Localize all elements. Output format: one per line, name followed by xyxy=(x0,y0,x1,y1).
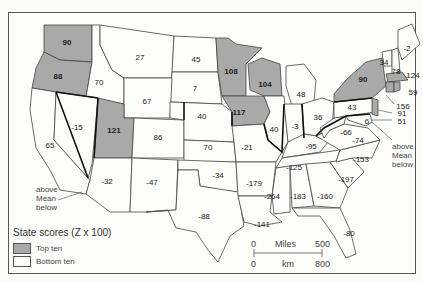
state-me xyxy=(398,24,420,60)
scale-km-label: km xyxy=(282,259,294,269)
label-tn: -125 xyxy=(286,163,303,172)
label-pa: 43 xyxy=(348,103,357,112)
label-nv: -15 xyxy=(71,123,83,132)
legend-label-bottom-ten: Bottom ten xyxy=(36,257,75,266)
label-md: 6 xyxy=(365,117,370,126)
label-fl: -80 xyxy=(343,229,355,238)
label-de: 51 xyxy=(398,117,407,126)
mean-west-above: above xyxy=(36,185,58,194)
legend-swatch-bottom-ten xyxy=(13,256,31,267)
label-in: -3 xyxy=(291,122,299,131)
legend-swatch-top-ten xyxy=(13,243,31,254)
label-ms: -264 xyxy=(264,192,281,201)
mean-east-below: below xyxy=(392,160,413,169)
scale-km-zero: 0 xyxy=(251,259,256,269)
label-ia: 117 xyxy=(233,108,246,117)
label-ca: 65 xyxy=(46,141,55,150)
label-ar: -179 xyxy=(246,179,263,188)
label-va: -74 xyxy=(352,136,364,145)
scale-miles-zero: 0 xyxy=(251,239,256,249)
mean-west-mean: Mean xyxy=(36,194,56,203)
label-az: -32 xyxy=(101,177,113,186)
label-ri: 59 xyxy=(409,88,418,97)
label-ny: 90 xyxy=(359,75,368,84)
label-al: -183 xyxy=(290,192,307,201)
mean-east-mean: Mean xyxy=(392,151,412,160)
label-il: 40 xyxy=(270,125,279,134)
leader-nj xyxy=(378,110,392,113)
label-vt: 34 xyxy=(380,58,389,67)
label-or: 88 xyxy=(54,72,63,81)
label-me: -2 xyxy=(403,44,411,53)
label-wa: 90 xyxy=(63,38,72,47)
state-mi xyxy=(286,64,316,106)
label-nh: 78 xyxy=(392,67,401,76)
label-nc: -153 xyxy=(353,155,370,164)
leader-mean-west xyxy=(58,192,82,200)
label-id: 70 xyxy=(95,78,104,87)
label-nd: 45 xyxy=(192,55,201,64)
label-tx: -88 xyxy=(198,212,210,221)
scale-miles-max: 500 xyxy=(315,239,330,249)
state-nd xyxy=(172,36,218,72)
label-mo: -21 xyxy=(241,143,253,152)
scale-km-max: 800 xyxy=(315,259,330,269)
legend-item-bottom-ten: Bottom ten xyxy=(13,256,75,267)
label-co: 86 xyxy=(154,133,163,142)
label-ky: -95 xyxy=(305,142,317,151)
label-ne: 40 xyxy=(198,112,207,121)
legend-title: State scores (Z x 100) xyxy=(13,227,111,238)
mean-east-above: above xyxy=(392,142,414,151)
label-ma: 124 xyxy=(406,71,420,80)
leader-ct xyxy=(386,95,394,104)
scale-miles-label: Miles xyxy=(275,239,296,249)
us-state-map: 90 88 70 27 45 108 104 48 90 -2 34 78 12… xyxy=(0,0,423,282)
label-mt: 27 xyxy=(136,53,145,62)
label-nm: -47 xyxy=(146,178,158,187)
mean-west-below: below xyxy=(36,203,57,212)
label-sc: -197 xyxy=(338,175,355,184)
label-wy: 67 xyxy=(143,97,152,106)
label-mn: 108 xyxy=(224,67,238,76)
label-wv: -66 xyxy=(340,128,352,137)
legend-item-top-ten: Top ten xyxy=(13,243,62,254)
label-sd: 7 xyxy=(193,84,198,93)
label-ok: -34 xyxy=(212,171,224,180)
state-ri xyxy=(394,82,400,92)
label-ut: 121 xyxy=(107,126,121,135)
label-wi: 104 xyxy=(258,80,272,89)
label-ga: -160 xyxy=(317,192,334,201)
state-nj xyxy=(372,98,378,116)
label-oh: 36 xyxy=(314,113,323,122)
label-la: -141 xyxy=(254,220,271,229)
state-wi xyxy=(248,58,282,96)
label-mi: 48 xyxy=(297,90,306,99)
label-ks: 70 xyxy=(204,143,213,152)
state-ct xyxy=(386,82,394,92)
legend-label-top-ten: Top ten xyxy=(36,244,62,253)
